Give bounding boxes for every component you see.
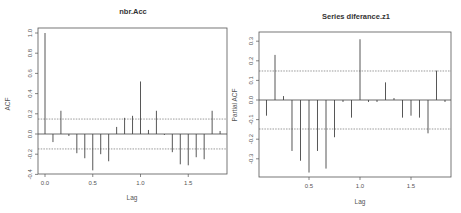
acf-pacf-figure: nbr.Acc -0.4-0.20.00.20.40.60.81.0 0.00.…	[0, 0, 461, 213]
pacf-chart-title: Series diferance.z1	[322, 12, 390, 21]
pacf-confidence-bounds	[259, 71, 451, 129]
acf-x-tick-label: 0.5	[89, 180, 98, 186]
acf-x-tick-label: 1.5	[184, 180, 193, 186]
acf-x-tick-label: 0.0	[41, 180, 50, 186]
acf-y-tick-label: 0.6	[27, 69, 33, 78]
acf-y-tick-label: 1.0	[27, 28, 33, 37]
pacf-x-tick-label: 1.5	[407, 183, 416, 189]
acf-chart-title: nbr.Acc	[119, 7, 147, 16]
acf-plot-frame	[38, 28, 227, 174]
pacf-x-tick-label: 1.0	[356, 183, 365, 189]
acf-x-label: Lag	[127, 194, 138, 202]
pacf-y-tick-label: 0.1	[248, 76, 254, 85]
acf-chart: nbr.Acc -0.4-0.20.00.20.40.60.81.0 0.00.…	[4, 7, 227, 202]
pacf-plot-frame	[259, 32, 451, 177]
pacf-bars	[266, 39, 445, 172]
pacf-y-label: Partial ACF	[231, 89, 238, 122]
pacf-y-tick-label: 0.0	[248, 95, 254, 104]
acf-y-label: ACF	[4, 97, 11, 110]
pacf-chart: Series diferance.z1 -0.3-0.2-0.10.00.10.…	[231, 12, 451, 206]
acf-y-tick-label: 0.8	[27, 48, 33, 57]
pacf-x-tick-label: 0.5	[305, 183, 314, 189]
acf-x-axis: 0.00.51.01.5	[41, 174, 193, 186]
acf-y-tick-label: -0.4	[27, 169, 33, 180]
pacf-y-tick-label: -0.2	[248, 133, 254, 144]
pacf-y-axis: -0.3-0.2-0.10.00.10.20.3	[248, 36, 259, 164]
acf-y-tick-label: 0.0	[27, 129, 33, 138]
acf-y-axis: -0.4-0.20.00.20.40.60.81.0	[27, 28, 38, 179]
pacf-y-tick-label: 0.3	[248, 36, 254, 45]
pacf-y-tick-label: 0.2	[248, 56, 254, 65]
pacf-y-tick-label: -0.1	[248, 114, 254, 125]
acf-y-tick-label: 0.4	[27, 89, 33, 98]
acf-x-tick-label: 1.0	[136, 180, 145, 186]
pacf-x-label: Lag	[355, 198, 366, 206]
pacf-x-axis: 0.51.01.5	[305, 177, 416, 189]
acf-y-tick-label: 0.2	[27, 109, 33, 118]
acf-bars	[45, 33, 220, 170]
acf-y-tick-label: -0.2	[27, 148, 33, 159]
pacf-y-tick-label: -0.3	[248, 153, 254, 164]
